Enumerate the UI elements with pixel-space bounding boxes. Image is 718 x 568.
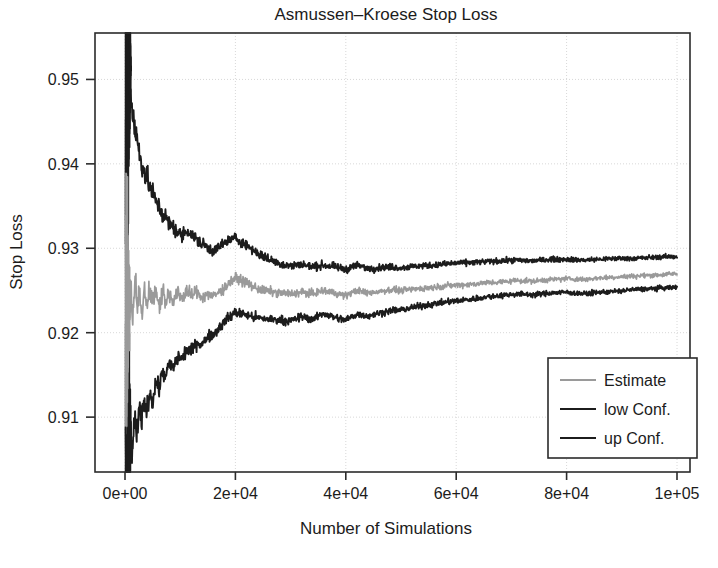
chart-legend: Estimatelow Conf.up Conf. <box>548 358 697 458</box>
legend-label-2: up Conf. <box>604 430 664 447</box>
x-tick-label: 0e+00 <box>103 485 148 502</box>
y-tick-label: 0.93 <box>48 240 79 257</box>
chart-title: Asmussen–Kroese Stop Loss <box>274 5 497 24</box>
x-tick-label: 2e+04 <box>213 485 258 502</box>
y-tick-label: 0.91 <box>48 409 79 426</box>
x-tick-label: 8e+04 <box>544 485 589 502</box>
stop-loss-line-chart: Asmussen–Kroese Stop Loss 0e+002e+044e+0… <box>0 0 718 568</box>
x-tick-label: 6e+04 <box>434 485 479 502</box>
legend-label-0: Estimate <box>604 372 666 389</box>
chart-container: Asmussen–Kroese Stop Loss 0e+002e+044e+0… <box>0 0 718 568</box>
legend-label-1: low Conf. <box>604 401 671 418</box>
x-tick-label: 1e+05 <box>655 485 700 502</box>
y-axis-label: Stop Loss <box>7 214 26 290</box>
x-axis-label: Number of Simulations <box>300 519 472 538</box>
y-tick-label: 0.95 <box>48 71 79 88</box>
chart-background <box>0 0 718 568</box>
y-tick-label: 0.94 <box>48 156 79 173</box>
y-tick-label: 0.92 <box>48 325 79 342</box>
x-tick-label: 4e+04 <box>323 485 368 502</box>
